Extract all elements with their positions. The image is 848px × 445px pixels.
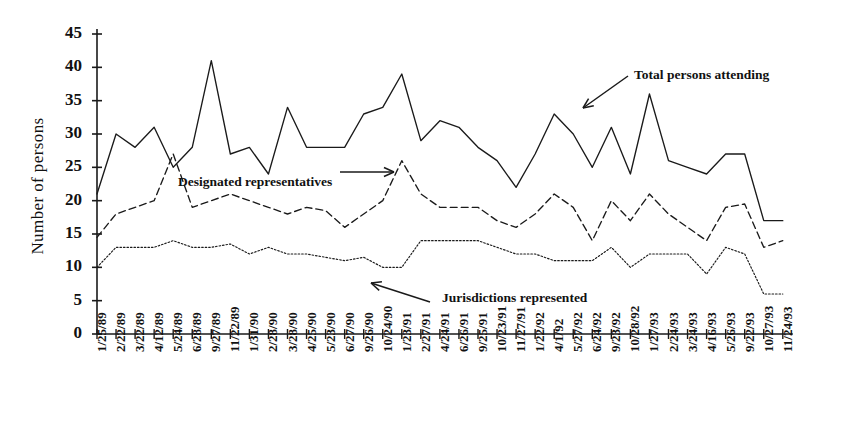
- y-tick-label: 20: [52, 190, 82, 210]
- x-tick-label: 6/26/91: [456, 312, 472, 352]
- x-tick-label: 1/31/90: [246, 312, 262, 352]
- x-tick-label: 3/22/89: [132, 312, 148, 352]
- x-tick-label: 4/25/90: [304, 312, 320, 352]
- x-tick-label: 2/22/89: [113, 312, 129, 352]
- x-tick-label: 3/24/93: [685, 312, 701, 352]
- x-tick-label: 1/23/91: [399, 312, 415, 352]
- annotation-designated-representatives: Designated representatives: [178, 174, 332, 190]
- annotation-arrows: [340, 76, 628, 302]
- x-tick-label: 9/22/93: [742, 312, 758, 352]
- x-tick-label: 9/23/92: [608, 312, 624, 352]
- y-tick-label: 10: [52, 256, 82, 276]
- x-tick-label: 11/22/89: [227, 306, 243, 352]
- x-tick-label: 10/24/90: [380, 306, 396, 352]
- x-tick-label: 1/25/89: [94, 312, 110, 352]
- x-tick-label: 3/28/90: [285, 312, 301, 352]
- x-tick-label: 4/16/93: [704, 312, 720, 352]
- annotation-arrow-jurisdictions-represented: [371, 282, 430, 302]
- x-tick-label: 5/24/89: [170, 312, 186, 352]
- x-tick-label: 2/27/91: [418, 312, 434, 352]
- x-tick-label: 10/27/93: [761, 306, 777, 352]
- y-tick-label: 40: [52, 56, 82, 76]
- x-tick-label: 9/27/89: [208, 312, 224, 352]
- x-tick-label: 5/27/92: [570, 312, 586, 352]
- y-tick-label: 30: [52, 123, 82, 143]
- y-tick-label: 35: [52, 90, 82, 110]
- x-tick-label: 4/1/92: [551, 319, 567, 352]
- annotation-arrow-designated-representatives: [340, 168, 394, 177]
- y-tick-label: 25: [52, 156, 82, 176]
- x-tick-label: 11/24/93: [780, 306, 796, 352]
- x-tick-label: 4/24/91: [437, 312, 453, 352]
- x-tick-label: 4/12/89: [151, 312, 167, 352]
- x-tick-label: 6/28/89: [189, 312, 205, 352]
- series-line-total-persons-attending: [97, 61, 783, 221]
- y-axis-title: Number of persons: [28, 96, 48, 276]
- x-tick-label: 10/28/92: [627, 306, 643, 352]
- x-tick-label: 5/23/90: [323, 312, 339, 352]
- y-tick-label: 0: [52, 323, 82, 343]
- x-tick-label: 2/24/93: [666, 312, 682, 352]
- x-tick-label: 6/27/90: [342, 312, 358, 352]
- annotation-jurisdictions-represented: Jurisdictions represented: [442, 290, 587, 306]
- annotation-arrow-total-persons-attending: [583, 76, 628, 108]
- x-tick-label: 6/24/92: [589, 312, 605, 352]
- x-tick-label: 9/25/91: [475, 312, 491, 352]
- x-tick-label: 1/22/92: [532, 312, 548, 352]
- series-line-jurisdictions-represented: [97, 241, 783, 294]
- series-line-designated-representatives: [97, 154, 783, 247]
- y-tick-label: 45: [52, 23, 82, 43]
- x-tick-label: 10/23/91: [494, 306, 510, 352]
- x-tick-label: 9/26/90: [361, 312, 377, 352]
- y-tick-label: 15: [52, 223, 82, 243]
- y-tick-label: 5: [52, 290, 82, 310]
- x-tick-label: 5/26/93: [723, 312, 739, 352]
- x-tick-label: 1/27/93: [646, 312, 662, 352]
- x-tick-label: 11/27/91: [513, 306, 529, 352]
- annotation-total-persons-attending: Total persons attending: [634, 67, 769, 83]
- chart-figure: Number of persons 454035302520151050 1/2…: [0, 0, 848, 445]
- x-tick-label: 2/28/90: [265, 312, 281, 352]
